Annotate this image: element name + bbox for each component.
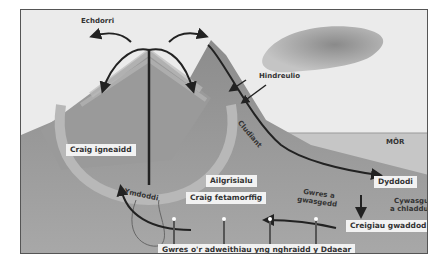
- label-earth-heat: Gwres o'r adweithiau yng nghraidd y Ddae…: [158, 244, 355, 254]
- label-metamorphic: Craig fetamorffig: [186, 192, 266, 204]
- label-igneous: Craig igneaidd: [66, 144, 136, 156]
- label-compaction-2: a chladdu: [390, 205, 428, 213]
- label-recrystallisation: Ailgrisialu: [206, 175, 257, 187]
- rock-cycle-diagram: Echdorri Hindreulio Cludiant MÔR Dyddodi…: [20, 9, 428, 254]
- label-weathering: Hindreulio: [259, 72, 300, 80]
- diagram-scene: [21, 10, 428, 254]
- label-erosion: Echdorri: [81, 17, 114, 25]
- label-sedimentary: Creigiau gwaddod: [346, 220, 428, 232]
- label-sea: MÔR: [386, 138, 404, 146]
- label-compaction-1: Cywasgu: [394, 197, 428, 205]
- label-deposition: Dyddodi: [374, 176, 417, 188]
